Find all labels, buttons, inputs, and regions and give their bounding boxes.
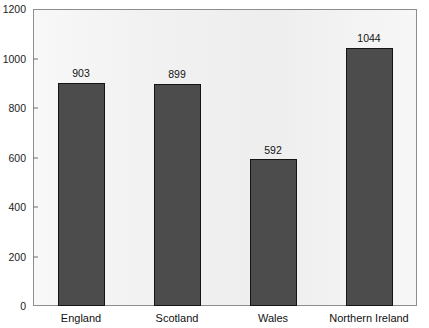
bar-group: 899: [154, 9, 201, 306]
bar-value-label: 899: [168, 69, 186, 80]
x-axis: EnglandScotlandWalesNorthern Ireland: [33, 307, 417, 328]
bar[interactable]: [154, 84, 201, 307]
bar[interactable]: [58, 83, 105, 306]
bar-group: 1044: [346, 9, 393, 306]
bar[interactable]: [250, 159, 297, 306]
y-tick-label: 200: [8, 251, 26, 262]
bar-group: 903: [58, 9, 105, 306]
y-tick-label: 1200: [3, 4, 26, 15]
x-tick-label: Wales: [258, 313, 288, 324]
y-tick-label: 1000: [3, 53, 26, 64]
x-tick-label: Scotland: [156, 313, 199, 324]
bar-chart: 020040060080010001200 9038995921044 Engl…: [0, 0, 429, 328]
y-tick-label: 800: [8, 103, 26, 114]
y-tick-label: 0: [20, 301, 26, 312]
y-tick-label: 600: [8, 152, 26, 163]
x-tick-label: Northern Ireland: [329, 313, 409, 324]
bar-value-label: 903: [72, 68, 90, 79]
y-tick-label: 400: [8, 202, 26, 213]
bar[interactable]: [346, 48, 393, 306]
y-axis: 020040060080010001200: [0, 0, 33, 328]
bar-group: 592: [250, 9, 297, 306]
bars-layer: 9038995921044: [33, 9, 417, 306]
bar-value-label: 1044: [357, 33, 380, 44]
x-tick-label: England: [61, 313, 101, 324]
bar-value-label: 592: [264, 145, 282, 156]
